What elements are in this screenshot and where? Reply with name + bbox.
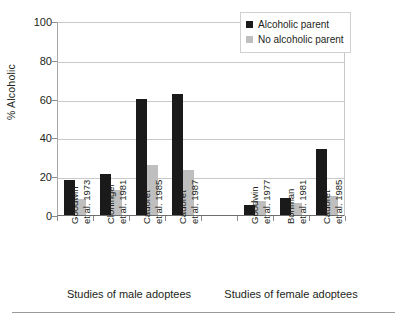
category-label: Cadoretet al. 1985 [321,156,334,224]
chart-figure: % Alcoholic 020406080100 Goodwinet al. 1… [0,0,407,323]
category-label: Cadoretet al. 1985 [141,156,154,224]
category-label-line2: et al. 1973 [81,180,93,224]
x-tick-mark [57,216,58,221]
legend-item: Alcoholic parent [246,17,344,32]
y-tick-label: 60 [12,94,52,106]
category-label-line1: Cadoret [141,190,152,224]
bar-group [202,23,238,215]
x-tick-mark [93,216,94,221]
group-label: Studies of female adoptees [201,288,381,300]
category-label-line2: et al. 1981 [297,180,309,224]
legend-swatch-icon [246,36,253,43]
category-label-line1: Cadoret [321,190,332,224]
category-label-line2: et al. 1981 [117,180,129,224]
x-tick-mark [309,216,310,221]
category-label: Goodwinet al. 1977 [249,156,262,224]
y-tick-label: 100 [12,16,52,28]
legend-label: No alcoholic parent [258,34,344,45]
category-label: Bohmanet al. 1981 [285,156,298,224]
category-label-line1: Goodwin [69,187,80,225]
category-label-line1: Cadoret [177,190,188,224]
category-label-line2: et al. 1977 [261,180,273,224]
y-tick-label: 40 [12,132,52,144]
category-label-line1: Bohman [285,189,296,224]
category-label-line2: et al. 1987 [189,180,201,224]
x-tick-mark [345,216,346,221]
x-tick-mark [165,216,166,221]
category-label-line2: et al. 1985 [153,180,165,224]
category-label-line1: Goodwin [249,187,260,225]
category-label: Cadoretet al. 1987 [177,156,190,224]
y-tick-label: 0 [12,210,52,222]
group-label: Studies of male adoptees [39,288,219,300]
x-tick-mark [129,216,130,221]
category-label: Goodwinet al. 1973 [69,156,82,224]
bottom-divider [12,312,395,313]
category-label-line2: et al. 1985 [333,180,345,224]
x-tick-mark [273,216,274,221]
legend-item: No alcoholic parent [246,32,344,47]
y-axis-title: % Alcoholic [5,37,17,147]
legend-label: Alcoholic parent [258,19,329,30]
category-label: Cloningeret al. 1981 [105,156,118,224]
category-label-line1: Cloninger [105,183,116,224]
y-tick-label: 20 [12,171,52,183]
chart-legend: Alcoholic parentNo alcoholic parent [240,12,351,53]
x-tick-mark [201,216,202,221]
x-tick-mark [237,216,238,221]
y-tick-label: 80 [12,55,52,67]
legend-swatch-icon [246,21,253,28]
